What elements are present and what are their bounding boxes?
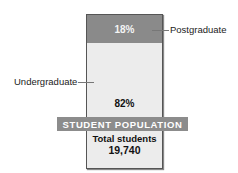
- total-students-value: 19,740: [86, 144, 163, 156]
- undergraduate-percent: 82%: [87, 98, 162, 109]
- total-students-label: Total students: [86, 133, 163, 144]
- postgraduate-segment: 18%: [87, 15, 162, 43]
- undergraduate-leader-line: [78, 82, 94, 83]
- postgraduate-label: Postgraduate: [170, 24, 227, 35]
- chart-title-banner: STUDENT POPULATION: [57, 117, 188, 131]
- total-students: Total students 19,740: [86, 133, 163, 156]
- postgraduate-leader-line: [152, 30, 169, 31]
- postgraduate-percent: 18%: [114, 24, 134, 35]
- undergraduate-label: Undergraduate: [14, 76, 77, 87]
